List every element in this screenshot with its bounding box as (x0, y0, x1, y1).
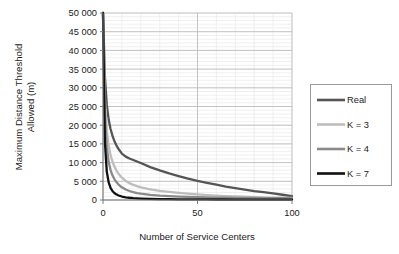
legend-label: Real (347, 95, 366, 105)
x-axis-title: Number of Service Centers (139, 231, 255, 242)
y-tick-label: 25 000 (69, 102, 97, 112)
y-tick-label: 15 000 (69, 139, 97, 149)
y-tick-label: 5 000 (74, 177, 97, 187)
y-tick-label: 30 000 (69, 83, 97, 93)
chart-figure: 05 00010 00015 00020 00025 00030 00035 0… (0, 0, 399, 254)
y-tick-label: 40 000 (69, 46, 97, 56)
y-tick-label: 35 000 (69, 65, 97, 75)
x-tick-label: 0 (100, 208, 105, 218)
y-tick-label: 50 000 (69, 8, 97, 18)
y-tick-label: 0 (92, 195, 97, 205)
y-axis-title-line1: Maximum Distance Threshold (13, 44, 24, 171)
legend-label: K = 4 (347, 144, 369, 154)
y-axis-title-line2: Allowed (m) (25, 82, 36, 133)
legend: RealK = 3K = 4K = 7 (311, 85, 392, 186)
x-tick-label: 50 (192, 208, 202, 218)
y-tick-label: 45 000 (69, 27, 97, 37)
x-tick-label: 100 (284, 208, 300, 218)
y-tick-label: 20 000 (69, 121, 97, 131)
legend-label: K = 3 (347, 120, 369, 130)
y-tick-label: 10 000 (69, 158, 97, 168)
legend-label: K = 7 (347, 169, 369, 179)
chart-svg: 05 00010 00015 00020 00025 00030 00035 0… (0, 0, 399, 254)
